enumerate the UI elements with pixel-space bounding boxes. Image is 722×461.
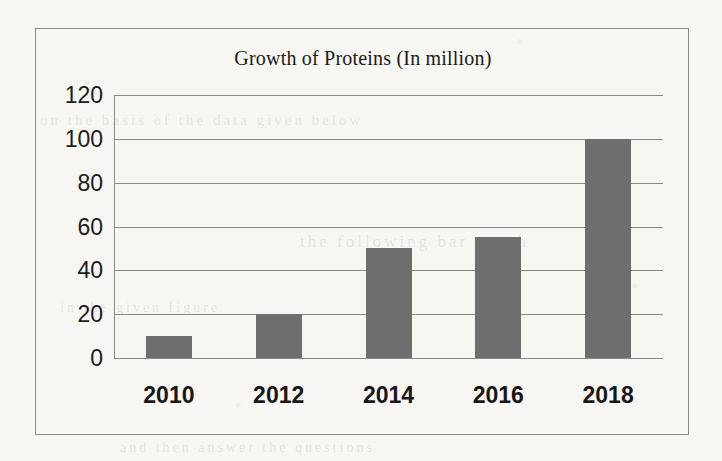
x-axis-tick-label: 2012 [253,382,304,409]
bar [256,314,302,358]
x-axis-tick-label: 2016 [473,382,524,409]
bar [366,248,412,358]
x-axis-tick-label: 2018 [583,382,634,409]
y-axis-tick-label: 20 [77,301,103,328]
y-axis-tick-label: 40 [77,257,103,284]
plot-area: 020406080100120 20102012201420162018 [114,95,663,358]
x-axis-tick-label: 2010 [143,382,194,409]
y-axis-tick-label: 120 [65,82,103,109]
y-axis-tick-label: 80 [77,169,103,196]
chart-title: Growth of Proteins (In million) [36,47,690,70]
gridline [114,358,663,359]
gridline [114,95,663,96]
y-axis-tick-label: 0 [90,345,103,372]
bar [146,336,192,358]
x-axis-tick-label: 2014 [363,382,414,409]
bleed-through-text: and then answer the questions [120,440,375,456]
gridline [114,139,663,140]
y-axis-tick-label: 100 [65,125,103,152]
gridline [114,183,663,184]
bar [475,237,521,358]
y-axis-tick-label: 60 [77,213,103,240]
bar [585,139,631,358]
chart-frame: Growth of Proteins (In million) 02040608… [35,28,689,435]
gridline [114,227,663,228]
